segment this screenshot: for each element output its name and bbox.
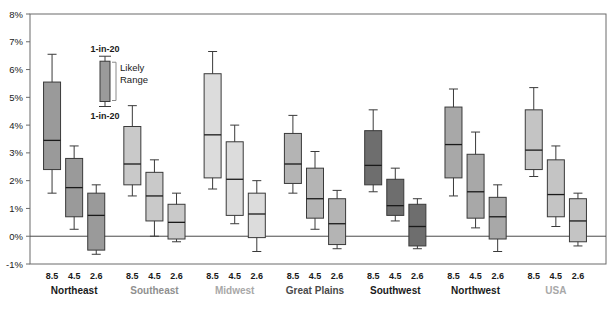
southwest-box-4-5-box[interactable] [387, 179, 404, 215]
y-axis-label-5: 5% [9, 92, 23, 103]
midwest-box-4-5-box[interactable] [226, 142, 243, 216]
y-axis-label-1: 1% [9, 203, 23, 214]
southwest-box-2-6-box[interactable] [409, 204, 426, 246]
southeast-box-8-5-box[interactable] [124, 127, 141, 185]
legend-label-top: 1-in-20 [90, 44, 119, 54]
group-label-northeast: Northeast [51, 285, 98, 296]
group-label-northwest: Northwest [451, 285, 501, 296]
chart-canvas: -1%0%1%2%3%4%5%6%7%8%8.54.52.6Northeast8… [0, 0, 611, 323]
y-axis-label-4: 4% [9, 120, 23, 131]
boxplot-chart: -1%0%1%2%3%4%5%6%7%8%8.54.52.6Northeast8… [0, 0, 611, 323]
group-label-great-plains: Great Plains [286, 285, 345, 296]
northeast-box-8-5-box[interactable] [44, 82, 61, 170]
y-axis-label-8: 8% [9, 9, 23, 20]
y-axis-label-7: 7% [9, 36, 23, 47]
southwest-box-8-5-box[interactable] [365, 131, 382, 185]
northeast-tick-4-5: 4.5 [68, 271, 81, 281]
y-axis-label-2: 2% [9, 175, 23, 186]
group-label-usa: USA [545, 285, 566, 296]
usa-box-8-5-box[interactable] [525, 110, 542, 170]
northwest-tick-8-5: 8.5 [447, 271, 460, 281]
southwest-tick-8-5: 8.5 [367, 271, 380, 281]
midwest-box-2-6-box[interactable] [248, 193, 265, 237]
y-axis-label-0: 0% [9, 231, 23, 242]
usa-box-4-5-box[interactable] [547, 160, 564, 217]
legend-bracket [112, 62, 116, 100]
southwest-tick-2-6: 2.6 [411, 271, 424, 281]
y-axis-label-6: 6% [9, 64, 23, 75]
southwest-tick-4-5: 4.5 [389, 271, 402, 281]
northwest-box-4-5-box[interactable] [467, 154, 484, 218]
northwest-box-2-6-box[interactable] [489, 197, 506, 239]
legend-box [100, 61, 110, 101]
legend-likely-range-line2: Range [120, 74, 148, 85]
southeast-tick-4-5: 4.5 [148, 271, 161, 281]
great-plains-tick-2-6: 2.6 [331, 271, 344, 281]
group-label-midwest: Midwest [215, 285, 255, 296]
southeast-tick-8-5: 8.5 [126, 271, 139, 281]
group-label-southeast: Southeast [130, 285, 179, 296]
midwest-tick-8-5: 8.5 [206, 271, 219, 281]
usa-box-2-6-box[interactable] [569, 199, 586, 242]
great-plains-box-2-6-box[interactable] [329, 199, 346, 245]
northeast-tick-8-5: 8.5 [46, 271, 59, 281]
northwest-box-8-5-box[interactable] [445, 107, 462, 178]
legend-label-bottom: 1-in-20 [90, 111, 119, 121]
usa-tick-2-6: 2.6 [572, 271, 585, 281]
usa-tick-8-5: 8.5 [528, 271, 541, 281]
group-label-southwest: Southwest [370, 285, 421, 296]
great-plains-tick-4-5: 4.5 [309, 271, 322, 281]
northeast-box-2-6-box[interactable] [88, 193, 105, 250]
midwest-tick-2-6: 2.6 [251, 271, 264, 281]
northwest-tick-2-6: 2.6 [491, 271, 504, 281]
northwest-tick-4-5: 4.5 [469, 271, 482, 281]
great-plains-box-8-5-box[interactable] [284, 133, 301, 183]
southeast-box-4-5-box[interactable] [146, 172, 163, 221]
southeast-tick-2-6: 2.6 [170, 271, 183, 281]
northeast-tick-2-6: 2.6 [90, 271, 103, 281]
midwest-tick-4-5: 4.5 [228, 271, 241, 281]
midwest-box-8-5-box[interactable] [204, 74, 221, 178]
legend-likely-range-line1: Likely [120, 62, 145, 73]
usa-tick-4-5: 4.5 [550, 271, 563, 281]
great-plains-box-4-5-box[interactable] [307, 168, 324, 218]
y-axis-label--1: -1% [6, 259, 23, 270]
y-axis-label-3: 3% [9, 147, 23, 158]
great-plains-tick-8-5: 8.5 [287, 271, 300, 281]
southeast-box-2-6-box[interactable] [168, 204, 185, 239]
